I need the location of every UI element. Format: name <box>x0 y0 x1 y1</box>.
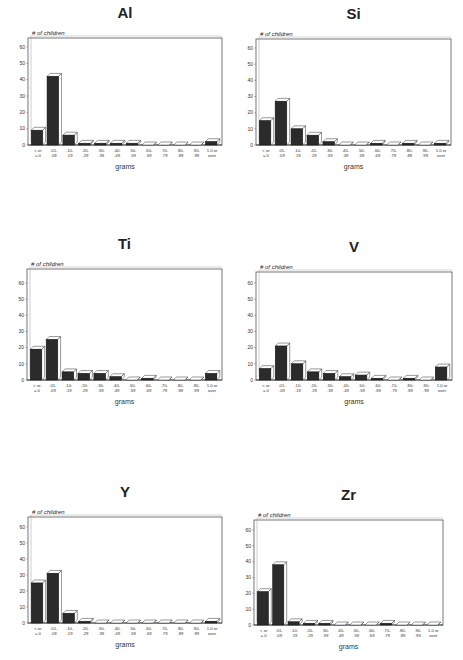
x-tick-label: .79 <box>161 388 167 393</box>
x-axis-label: grams <box>115 641 135 649</box>
x-tick-label: .19 <box>295 153 301 158</box>
x-tick-label: = 0 <box>34 388 41 393</box>
y-tick-label: 20 <box>18 344 24 350</box>
x-tick-label: .09 <box>276 633 282 638</box>
charts-canvas: Al# of children0102030405060< or= 0.01-.… <box>0 0 463 660</box>
y-tick-label: 30 <box>19 572 25 578</box>
x-tick-label: .59 <box>359 388 365 393</box>
bar <box>62 369 76 380</box>
y-tick-label: 40 <box>247 312 253 318</box>
x-tick-label: = 0 <box>263 388 270 393</box>
bar <box>94 371 108 380</box>
y-tick-label: 40 <box>18 312 24 318</box>
bar <box>158 620 172 623</box>
x-tick-label: .69 <box>375 388 381 393</box>
x-tick-label: .69 <box>146 153 152 158</box>
y-axis-label: # of children <box>32 509 65 515</box>
y-axis-label: # of children <box>260 31 293 37</box>
bar <box>126 140 140 145</box>
bar <box>435 364 450 380</box>
chart-y: Y# of children0102030405060< or= 0.01-.0… <box>19 483 222 649</box>
chart-title: Al <box>118 4 133 21</box>
y-tick-label: 40 <box>19 76 25 82</box>
chart-title: Zr <box>341 486 356 503</box>
y-tick-label: 0 <box>21 377 24 383</box>
x-tick-label: .49 <box>343 153 349 158</box>
bar <box>319 620 333 625</box>
y-tick-label: 50 <box>247 61 253 67</box>
x-tick-label: .49 <box>114 388 120 393</box>
bar <box>257 589 271 625</box>
x-tick-label: .49 <box>338 633 344 638</box>
y-tick-label: 30 <box>247 328 253 334</box>
bar <box>334 622 348 625</box>
x-tick-label: .29 <box>83 631 89 636</box>
bar <box>95 140 109 145</box>
chart-zr: Zr# of children0102030405060< or= 0.01-.… <box>245 486 443 651</box>
x-tick-label: .79 <box>162 631 168 636</box>
y-tick-label: 10 <box>19 125 25 131</box>
x-tick-label: .49 <box>114 631 120 636</box>
bar <box>189 377 203 380</box>
bar <box>174 142 188 145</box>
y-axis-label: # of children <box>258 512 291 518</box>
bar <box>31 580 45 623</box>
x-tick-label: .69 <box>145 388 151 393</box>
x-axis-label: grams <box>344 163 364 171</box>
y-tick-label: 40 <box>245 558 251 564</box>
x-tick-label: .89 <box>178 631 184 636</box>
x-tick-label: .69 <box>369 633 375 638</box>
x-tick-label: .59 <box>359 153 365 158</box>
bar <box>411 622 425 625</box>
x-tick-label: .09 <box>279 153 285 158</box>
y-tick-label: 50 <box>245 543 251 549</box>
bar <box>434 140 448 145</box>
bar <box>396 622 410 625</box>
y-tick-label: 50 <box>247 296 253 302</box>
y-tick-label: 50 <box>18 296 24 302</box>
bar <box>291 126 305 145</box>
x-tick-label: .89 <box>177 388 183 393</box>
bar <box>275 343 290 380</box>
y-tick-label: 30 <box>245 574 251 580</box>
chart-title: V <box>349 238 359 255</box>
x-tick-label: .29 <box>311 388 317 393</box>
bar <box>350 622 364 625</box>
bar <box>323 139 337 145</box>
bar <box>158 142 172 145</box>
bar <box>387 377 402 380</box>
bar <box>339 142 353 145</box>
x-tick-label: over <box>438 388 447 393</box>
bar <box>403 375 418 380</box>
bar <box>307 369 322 380</box>
y-tick-label: 60 <box>245 527 251 533</box>
y-tick-label: 50 <box>19 60 25 66</box>
bar <box>46 337 60 380</box>
x-tick-label: .39 <box>327 388 333 393</box>
chart-al: Al# of children0102030405060< or= 0.01-.… <box>19 4 222 171</box>
x-tick-label: .49 <box>114 153 120 158</box>
x-tick-label: .79 <box>162 153 168 158</box>
bar <box>47 73 61 145</box>
x-tick-label: .29 <box>311 153 317 158</box>
bar <box>355 142 369 145</box>
chart-title: Y <box>120 483 130 500</box>
x-axis-label: grams <box>115 163 135 171</box>
x-tick-label: .19 <box>67 631 73 636</box>
x-tick-label: over <box>208 153 217 158</box>
bar <box>95 620 109 623</box>
x-tick-label: .79 <box>390 153 396 158</box>
y-tick-label: 10 <box>247 361 253 367</box>
bar <box>402 140 416 145</box>
y-tick-label: 30 <box>247 93 253 99</box>
y-tick-label: 10 <box>19 604 25 610</box>
bar <box>355 372 370 380</box>
y-tick-label: 50 <box>19 540 25 546</box>
bar <box>288 619 302 625</box>
y-tick-label: 10 <box>247 126 253 132</box>
bar <box>79 618 93 623</box>
x-tick-label: .59 <box>130 153 136 158</box>
y-tick-label: 60 <box>247 280 253 286</box>
y-tick-label: 0 <box>250 142 253 148</box>
bar <box>31 127 45 145</box>
